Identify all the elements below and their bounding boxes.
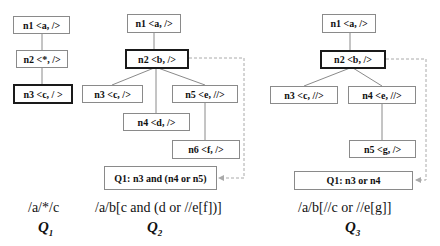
q2-node-n1: n1 <a, /> <box>127 14 181 33</box>
q1-label: Q1 <box>38 219 53 238</box>
q3-node-n4: n4 <e, //> <box>348 86 416 104</box>
q3-result-box: Q1: n3 or n4 <box>294 171 413 190</box>
q2-node-n4: n4 <d, /> <box>123 113 190 131</box>
q3-node-n5: n5 <g, /> <box>349 140 416 158</box>
q3-label: Q3 <box>345 219 360 238</box>
q3-node-n3: n3 <c, //> <box>270 86 338 104</box>
q2-node-n2: n2 <b, /> <box>125 49 189 69</box>
q2-node-n5: n5 <e, //> <box>172 85 238 103</box>
q2-label: Q2 <box>147 219 162 238</box>
q2-result-box: Q1: n3 and (n4 or n5) <box>104 166 217 190</box>
q1-node-n1: n1 <a, /> <box>13 16 70 34</box>
q1-node-n3: n3 <c, / > <box>13 84 73 104</box>
q2-node-n6: n6 <f, /> <box>172 140 240 159</box>
q2-xpath: /a/b[c and (d or //e[f])] <box>95 200 222 216</box>
q1-node-n2: n2 <*, /> <box>16 50 68 68</box>
q1-xpath: /a/*/c <box>28 200 59 216</box>
q2-node-n3: n3 <c, /> <box>82 85 143 103</box>
q3-node-n1: n1 <a, /> <box>322 14 376 33</box>
q3-node-n2: n2 <b, /> <box>320 50 386 69</box>
q3-xpath: /a/b[//c or //e[g]] <box>298 200 391 216</box>
